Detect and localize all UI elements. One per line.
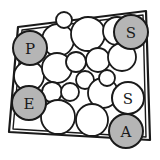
circle-s-right-shape xyxy=(112,82,144,114)
packed-circle xyxy=(71,17,105,51)
circle-s-top: S xyxy=(114,15,148,49)
figure-container: PSESA xyxy=(0,0,160,160)
circle-p-shape xyxy=(13,31,47,65)
packed-circle xyxy=(76,104,108,136)
circle-p: P xyxy=(13,31,47,65)
packed-circle xyxy=(61,83,79,101)
circle-packing-diagram: PSESA xyxy=(0,0,160,160)
circle-s-right: S xyxy=(112,82,144,114)
circle-a: A xyxy=(109,114,143,148)
circle-e-shape xyxy=(12,86,46,120)
circle-s-top-shape xyxy=(114,15,148,49)
packed-circle xyxy=(99,70,115,86)
circle-e: E xyxy=(12,86,46,120)
packed-circle xyxy=(86,48,110,72)
circle-a-shape xyxy=(109,114,143,148)
packed-circle xyxy=(56,12,72,28)
packed-circle xyxy=(66,52,86,72)
